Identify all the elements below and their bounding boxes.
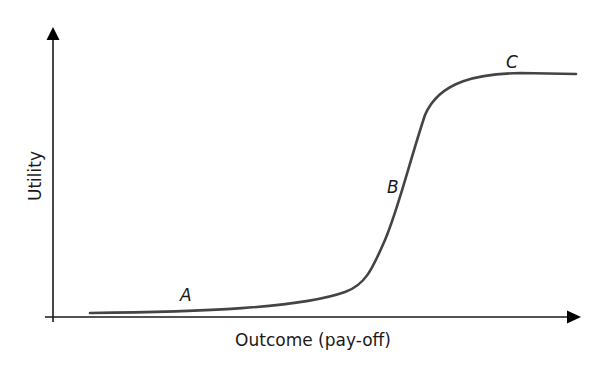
utility-curve bbox=[90, 73, 576, 313]
x-axis-label: Outcome (pay-off) bbox=[235, 330, 391, 350]
point-label-c: C bbox=[506, 52, 518, 72]
y-axis-label: Utility bbox=[25, 151, 45, 201]
point-label-b: B bbox=[387, 177, 399, 197]
y-axis-arrow-icon bbox=[47, 27, 60, 40]
utility-chart: A B C Outcome (pay-off) Utility bbox=[0, 0, 607, 368]
point-label-a: A bbox=[179, 285, 192, 305]
x-axis-arrow-icon bbox=[567, 311, 581, 324]
